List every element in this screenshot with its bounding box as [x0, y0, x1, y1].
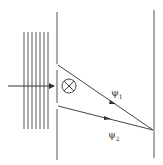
magnetic-flux-icon [62, 79, 76, 93]
path1-ray [58, 65, 153, 130]
diagram-canvas: ψ1 ψ2 [0, 0, 163, 165]
diagram: ψ1 ψ2 [0, 0, 163, 165]
psi2-label: ψ2 [108, 129, 120, 142]
psi1-label: ψ1 [111, 87, 123, 100]
path1-arrow-icon [109, 100, 116, 104]
wavefronts [24, 32, 48, 129]
